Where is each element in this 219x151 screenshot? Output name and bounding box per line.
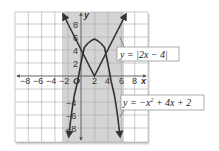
svg-text:4: 4 (105, 76, 110, 86)
svg-text:8: 8 (73, 20, 78, 30)
svg-text:2: 2 (92, 76, 97, 86)
svg-text:y = |2x − 4|: y = |2x − 4| (119, 49, 168, 60)
svg-text:−4: −4 (46, 76, 56, 86)
svg-text:6: 6 (73, 33, 78, 43)
x-axis-label: x (140, 76, 147, 86)
origin-label: O (73, 76, 80, 86)
svg-text:2: 2 (73, 59, 78, 69)
svg-text:−2: −2 (59, 76, 69, 86)
svg-text:4: 4 (73, 46, 78, 56)
svg-text:−4: −4 (66, 98, 76, 108)
svg-text:y = −x2 + 4x + 2: y = −x2 + 4x + 2 (122, 97, 191, 108)
svg-text:8: 8 (132, 76, 137, 86)
graph: −8 −6 −4 −2 2 4 6 8 8 6 4 2 −4 −6 −8 O x… (0, 0, 219, 151)
svg-text:−6: −6 (66, 111, 76, 121)
svg-text:−8: −8 (20, 76, 30, 86)
y-axis-label: y (83, 10, 90, 20)
svg-text:−6: −6 (33, 76, 43, 86)
svg-text:−8: −8 (66, 124, 76, 134)
svg-text:6: 6 (119, 76, 124, 86)
